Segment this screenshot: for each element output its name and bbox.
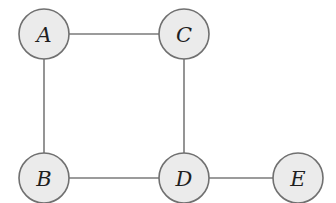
nodes-group: ACBDE [19, 9, 323, 203]
node-c: C [159, 9, 209, 59]
node-b: B [19, 153, 69, 203]
node-a: A [19, 9, 69, 59]
node-label: E [289, 167, 305, 191]
node-label: A [34, 23, 51, 47]
node-d: D [159, 153, 209, 203]
node-label: B [35, 167, 51, 191]
node-label: C [176, 23, 192, 47]
node-e: E [273, 153, 323, 203]
graph-diagram: ACBDE [0, 0, 336, 203]
node-label: D [175, 167, 193, 191]
